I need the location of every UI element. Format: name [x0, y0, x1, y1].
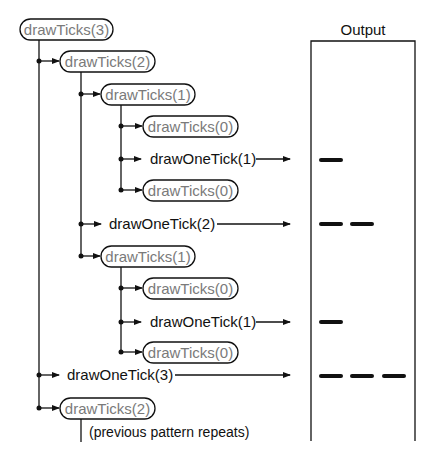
label-drawonetick-2: drawOneTick(2)	[109, 215, 215, 232]
label-drawticks-0c: drawTicks(0)	[148, 280, 233, 297]
branch-arrows	[39, 61, 142, 408]
junction-dots	[37, 59, 124, 411]
label-drawonetick-1b: drawOneTick(1)	[150, 313, 256, 330]
label-drawonetick-3: drawOneTick(3)	[67, 366, 173, 383]
label-drawticks-2a: drawTicks(2)	[65, 53, 150, 70]
label-drawticks-0d: drawTicks(0)	[148, 344, 233, 361]
label-drawticks-1b: drawTicks(1)	[105, 248, 190, 265]
repeat-note: (previous pattern repeats)	[89, 424, 249, 440]
label-drawticks-0b: drawTicks(0)	[148, 182, 233, 199]
output-box	[311, 41, 415, 441]
output-ticks	[321, 160, 404, 376]
label-drawonetick-1a: drawOneTick(1)	[150, 150, 256, 167]
label-drawticks-3: drawTicks(3)	[24, 21, 109, 38]
label-drawticks-2b: drawTicks(2)	[65, 400, 150, 417]
label-drawticks-0a: drawTicks(0)	[148, 118, 233, 135]
output-title: Output	[340, 21, 386, 38]
recursion-diagram: Output	[0, 0, 434, 459]
label-drawticks-1a: drawTicks(1)	[105, 86, 190, 103]
